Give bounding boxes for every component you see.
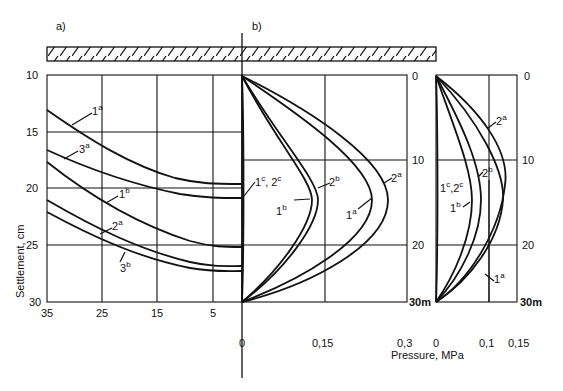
panel-b-curves (242, 76, 388, 302)
svg-text:20: 20 (522, 239, 534, 251)
svg-text:1a: 1a (494, 271, 505, 285)
svg-text:2a: 2a (391, 170, 402, 184)
svg-text:0,15: 0,15 (312, 337, 333, 349)
svg-text:0,1: 0,1 (479, 337, 494, 349)
svg-text:0: 0 (433, 337, 439, 349)
panel-b-depth-ticks: 0 10 20 30m (409, 70, 431, 308)
svg-text:1a: 1a (346, 207, 357, 221)
svg-text:25: 25 (96, 307, 108, 319)
svg-text:30m: 30m (520, 296, 542, 308)
panel-c-curve-labels: 2a 1c,2c 2b 1b 1a (440, 113, 507, 285)
panel-a-grid (47, 75, 242, 302)
panel-c-depth-ticks: 0 10 20 30m (520, 70, 542, 308)
svg-text:15: 15 (151, 307, 163, 319)
svg-text:1c,2c: 1c,2c (440, 180, 463, 194)
panel-c-x-ticks: 0 0,1 0,15 (433, 337, 529, 349)
svg-text:1b: 1b (119, 186, 130, 200)
svg-text:10: 10 (412, 154, 424, 166)
svg-text:2b: 2b (482, 165, 493, 179)
svg-text:1b: 1b (276, 203, 287, 217)
svg-text:3a: 3a (79, 141, 90, 155)
curve-b-2b (242, 76, 318, 302)
svg-text:35: 35 (41, 307, 53, 319)
svg-text:0: 0 (412, 70, 418, 82)
panel-a-y-ticks: 10 15 20 25 30 (26, 69, 41, 308)
svg-text:20: 20 (26, 182, 38, 194)
panel-a-x-ticks: 35 25 15 5 (41, 307, 216, 319)
svg-text:30: 30 (29, 296, 41, 308)
svg-text:10: 10 (522, 154, 534, 166)
svg-text:0: 0 (239, 337, 245, 349)
settlement-pressure-figure: a) b) 10 15 20 25 30 35 25 15 5 Settleme… (0, 0, 563, 391)
svg-text:0,15: 0,15 (508, 337, 529, 349)
svg-text:5: 5 (210, 307, 216, 319)
svg-text:1c, 2c: 1c, 2c (255, 174, 281, 188)
svg-text:0,3: 0,3 (397, 337, 412, 349)
panel-c-curves (436, 76, 506, 302)
svg-text:1b: 1b (450, 200, 461, 214)
svg-text:2a: 2a (496, 113, 507, 127)
panel-b-label: b) (252, 20, 262, 32)
svg-text:0: 0 (524, 70, 530, 82)
pressure-axis-title: Pressure, MPa (391, 349, 465, 361)
svg-text:3b: 3b (120, 260, 131, 274)
svg-text:2b: 2b (329, 174, 340, 188)
panel-a-label: a) (56, 20, 66, 32)
panel-b-grid (242, 75, 407, 302)
panel-b-curve-labels: 1c, 2c 1b 2b 1a 2a (244, 170, 402, 221)
svg-text:15: 15 (26, 126, 38, 138)
svg-text:2a: 2a (112, 218, 123, 232)
svg-text:30m: 30m (409, 296, 431, 308)
svg-text:25: 25 (26, 239, 38, 251)
settlement-axis-title: Settlement, cm (14, 225, 26, 298)
svg-text:10: 10 (26, 69, 38, 81)
panel-b-x-ticks: 0 0,15 0,3 (239, 337, 412, 349)
svg-text:20: 20 (412, 239, 424, 251)
